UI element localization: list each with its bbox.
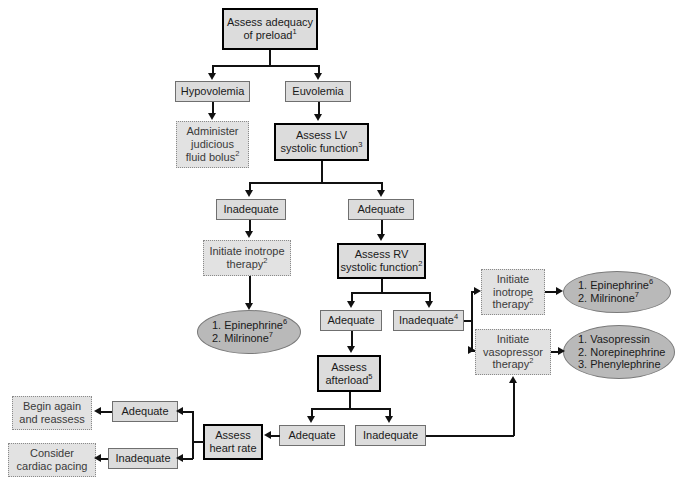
node-initiate-inotrope-left: Initiate inotropetherapy2 — [203, 240, 291, 276]
edge-lvadeq-to-rv — [381, 220, 383, 234]
node-cardiac-pacing: Considercardiac pacing — [8, 443, 96, 477]
node-fluid-bolus: Administerjudiciousfluid bolus2 — [176, 121, 249, 168]
arrowhead-assess-afterload — [347, 346, 355, 353]
node-drugs-vasopressor: 1. Vasopressin2. Norepinephrine3. Phenyl… — [563, 325, 675, 379]
node-initiate-inotrope-right: Initiateinotropetherapy2 — [481, 269, 545, 315]
arrowhead-initiate-inotrope-right — [474, 287, 481, 295]
arrowhead-initiate-vasopressor — [468, 346, 475, 354]
node-assess-lv-text: Assess LVsystolic function3 — [281, 129, 363, 155]
node-euvolemia: Euvolemia — [285, 81, 351, 102]
node-drugs-inotrope-left-text: 1. Epinephrine62. Milrinone7 — [212, 319, 287, 345]
arrowhead-lv-adequate — [377, 190, 385, 197]
node-afterload-adequate-text: Adequate — [288, 429, 335, 442]
arrowhead-hr-inadequate — [176, 454, 183, 462]
node-initiate-inotrope-right-text: Initiateinotropetherapy2 — [493, 273, 534, 312]
arrowhead-initiate-inotrope-left — [245, 231, 253, 238]
node-rv-inadequate-text: Inadequate4 — [399, 314, 458, 327]
edge-hr-stem — [192, 441, 204, 443]
node-assess-rv: Assess RVsystolic function2 — [337, 243, 426, 279]
arrowhead-euvolemia — [314, 73, 322, 80]
edge-inotrope-to-drugs-left — [249, 276, 251, 304]
arrowhead-assess-lv — [314, 114, 322, 121]
node-assess-afterload: Assessafterload5 — [317, 355, 381, 392]
edge-hradeq-to-begin — [100, 411, 112, 413]
arrowhead-cardiac-pacing — [94, 454, 101, 462]
arrowhead-drugs-vasopressor — [558, 347, 565, 355]
node-hr-inadequate: Inadequate — [108, 448, 178, 469]
arrowhead-rv-inadequate — [425, 301, 433, 308]
node-initiate-vasopressor: Initiatevasopressortherapy2 — [475, 329, 551, 375]
edge-hr-bus — [192, 411, 194, 459]
node-hr-inadequate-text: Inadequate — [115, 452, 170, 465]
edge-rv-stem — [381, 279, 383, 293]
node-assess-heart-rate: Assessheart rate — [203, 424, 263, 460]
node-afterload-inadequate: Inadequate — [355, 425, 426, 446]
node-lv-adequate-text: Adequate — [357, 203, 404, 216]
node-initiate-vasopressor-text: Initiatevasopressortherapy2 — [483, 333, 543, 372]
node-rv-inadequate: Inadequate4 — [393, 310, 464, 331]
edge-afterload-bus — [311, 408, 390, 410]
edge-afterloadadeq-to-hr — [270, 435, 280, 437]
node-assess-heart-rate-text: Assessheart rate — [209, 429, 256, 455]
arrowhead-lv-inadequate — [245, 190, 253, 197]
node-assess-afterload-text: Assessafterload5 — [326, 361, 373, 387]
node-drugs-vasopressor-text: 1. Vasopressin2. Norepinephrine3. Phenyl… — [578, 333, 665, 372]
edge-preload-stem — [269, 50, 271, 66]
node-lv-adequate: Adequate — [348, 199, 414, 220]
node-rv-adequate: Adequate — [320, 310, 382, 331]
node-cardiac-pacing-text: Considercardiac pacing — [17, 447, 88, 473]
node-drugs-inotrope-left: 1. Epinephrine62. Milrinone7 — [197, 310, 301, 354]
edge-rvadeq-to-afterload — [351, 331, 353, 346]
node-hr-adequate: Adequate — [112, 401, 178, 422]
edge-lv-stem — [321, 161, 323, 183]
arrowhead-begin-again — [94, 407, 101, 415]
node-rv-adequate-text: Adequate — [327, 314, 374, 327]
node-hr-adequate-text: Adequate — [121, 405, 168, 418]
node-hypovolemia: Hypovolemia — [175, 81, 250, 102]
node-hypovolemia-text: Hypovolemia — [181, 85, 245, 98]
edge-preload-bus — [212, 65, 319, 67]
arrowhead-fluid-bolus — [208, 113, 216, 120]
edge-afterload-stem — [349, 392, 351, 409]
node-assess-preload: Assess adequacyof preload1 — [222, 8, 318, 50]
arrowhead-hypovolemia — [208, 73, 216, 80]
arrowhead-afterload-adequate — [307, 416, 315, 423]
node-afterload-adequate: Adequate — [279, 425, 345, 446]
node-euvolemia-text: Euvolemia — [292, 85, 343, 98]
node-afterload-inadequate-text: Inadequate — [363, 429, 418, 442]
node-assess-rv-text: Assess RVsystolic function2 — [341, 248, 423, 274]
node-drugs-inotrope-right: 1. Epinephrine62. Milrinone7 — [563, 271, 671, 313]
node-initiate-inotrope-left-text: Initiate inotropetherapy2 — [209, 245, 284, 271]
arrowhead-drugs-inotrope-right — [556, 287, 563, 295]
node-assess-preload-text: Assess adequacyof preload1 — [227, 16, 313, 42]
edge-lv-bus — [249, 182, 382, 184]
arrowhead-assess-rv — [377, 234, 385, 241]
node-begin-again: Begin againand reassess — [12, 396, 92, 430]
node-assess-lv: Assess LVsystolic function3 — [274, 123, 369, 161]
arrowhead-vasopressor-from-afterload — [509, 376, 517, 383]
arrowhead-assess-heart-rate — [264, 431, 271, 439]
edge-afterloadinad-up — [513, 383, 515, 436]
edge-rv-bus — [351, 292, 430, 294]
node-lv-inadequate: Inadequate — [216, 199, 286, 220]
edge-hrinad-to-pacing — [100, 458, 108, 460]
node-begin-again-text: Begin againand reassess — [19, 400, 84, 426]
flowchart-canvas: Assess adequacyof preload1 Hypovolemia E… — [0, 0, 677, 494]
arrowhead-rv-adequate — [347, 301, 355, 308]
node-drugs-inotrope-right-text: 1. Epinephrine62. Milrinone7 — [578, 279, 653, 305]
arrowhead-drugs-inotrope-left — [245, 303, 253, 310]
node-fluid-bolus-text: Administerjudiciousfluid bolus2 — [186, 125, 240, 164]
node-lv-inadequate-text: Inadequate — [223, 203, 278, 216]
arrowhead-afterload-inadequate — [385, 416, 393, 423]
arrowhead-hr-adequate — [176, 407, 183, 415]
edge-afterloadinad-right — [426, 435, 514, 437]
edge-rvinad-vertical — [471, 291, 473, 351]
